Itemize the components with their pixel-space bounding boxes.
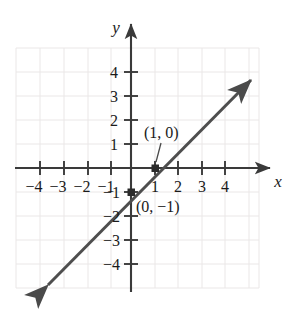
x-tick-label-neg4: −4 xyxy=(25,178,42,195)
y-tick-label-neg3: −3 xyxy=(103,232,120,249)
x-tick-label-neg2: −2 xyxy=(73,178,90,195)
y-tick-label-2: 2 xyxy=(110,112,118,129)
x-tick-label-neg3: −3 xyxy=(49,178,66,195)
coordinate-plane-svg: y x −4 −3 −2 −1 1 2 3 4 4 3 2 1 −1 −2 −3… xyxy=(0,0,292,310)
x-axis-label: x xyxy=(273,172,282,191)
leader-line-point-1-0 xyxy=(156,143,161,162)
y-tick-label-3: 3 xyxy=(110,88,118,105)
x-tick-label-4: 4 xyxy=(221,178,229,195)
x-tick-label-2: 2 xyxy=(174,178,182,195)
y-tick-label-neg1: −1 xyxy=(103,184,120,201)
x-tick-label-3: 3 xyxy=(198,178,206,195)
point-1-0 xyxy=(152,165,160,173)
graph-figure: y x −4 −3 −2 −1 1 2 3 4 4 3 2 1 −1 −2 −3… xyxy=(0,0,292,310)
annotation-point-1-0: (1, 0) xyxy=(144,124,179,142)
y-tick-label-neg4: −4 xyxy=(103,256,120,273)
y-tick-label-4: 4 xyxy=(110,64,118,81)
x-tick-label-1: 1 xyxy=(151,178,159,195)
y-tick-label-neg2: −2 xyxy=(103,208,120,225)
y-axis-label: y xyxy=(110,18,120,37)
annotation-point-0-neg1: (0, −1) xyxy=(136,198,180,216)
point-0-neg1 xyxy=(128,189,136,197)
y-tick-label-1: 1 xyxy=(110,136,118,153)
